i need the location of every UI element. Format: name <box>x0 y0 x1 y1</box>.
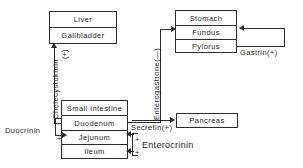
secretin-line <box>132 120 173 121</box>
enterogastrone-label: Enterogastrone(—) <box>152 48 161 120</box>
duocrinin-line-top <box>55 118 62 119</box>
cck-arrowhead <box>51 43 57 48</box>
fundus-cell: Fundus <box>176 25 236 39</box>
jejunum-cell: Jejunum <box>62 130 127 144</box>
enterocrinin-arrowhead-jejunum <box>126 131 131 137</box>
duodenum-cell: Duodenum <box>62 115 127 130</box>
gastrin-line-bottom <box>237 46 285 47</box>
enterocrinin-arrowhead-ileum <box>126 148 131 154</box>
stomach-cell: Stomach <box>176 11 236 25</box>
gastrin-line-top <box>244 28 285 29</box>
gastrin-line-vertical <box>284 28 285 46</box>
gastrin-arrowhead <box>239 25 244 31</box>
duocrinin-label: Duocrinin <box>5 126 40 135</box>
secretin-label: Secretin(+) <box>131 123 172 132</box>
duocrinin-arrowhead <box>62 132 67 138</box>
enterocrinin-plus-lower: + <box>135 149 139 157</box>
pylorus-cell: Pylorus <box>176 39 236 52</box>
gi-hormone-diagram: Liver Gallbladder Stomach Fundus Pylorus… <box>0 0 303 168</box>
gastrin-label: Gastrin(+) <box>240 48 278 57</box>
enterocrinin-label: Enterocrinin <box>142 140 194 150</box>
pancreas-cell: Pancreas <box>177 114 237 127</box>
cholecystokinin-sign: (+) <box>60 50 69 59</box>
cholecystokinin-label: Cholecystokinin <box>51 59 60 119</box>
enterocrinin-plus-upper: + <box>135 136 139 144</box>
liver-cell: Liver <box>50 12 116 27</box>
gallbladder-cell: Gallbladder <box>50 27 116 43</box>
duocrinin-line-vertical <box>55 118 56 135</box>
ileum-cell: Ileum <box>62 144 127 158</box>
enterogastrone-arrowhead <box>171 26 176 32</box>
small-intestine-cell: Small intestine <box>62 101 127 115</box>
duocrinin-plus: + <box>57 135 61 143</box>
